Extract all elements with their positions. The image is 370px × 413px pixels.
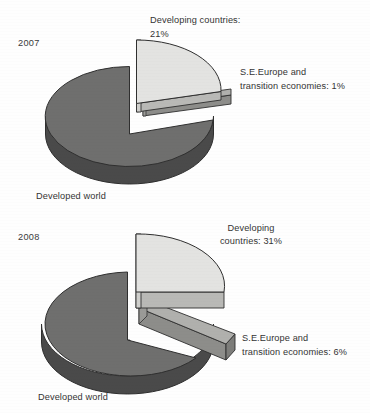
label-se-europe-2007-line1: S.E.Europe and — [240, 66, 306, 79]
pie-2008-graphic — [0, 208, 370, 413]
label-se-europe-2008-line2: transition economies: 6% — [242, 346, 347, 359]
figure-two-pie-charts: 2007 Developing countries: 21% S.E.Europ… — [0, 0, 370, 413]
pie-chart-2007: 2007 Developing countries: 21% S.E.Europ… — [0, 0, 370, 210]
label-developed-world-2008: Developed world — [38, 391, 108, 404]
slice-developing-countries-2007 — [137, 40, 222, 112]
label-se-europe-2008-line1: S.E.Europe and — [242, 332, 308, 345]
label-developing-countries-2008-line2: countries: 31% — [196, 235, 306, 248]
label-developed-world-2007: Developed world — [36, 190, 106, 203]
pie-2007-graphic — [0, 0, 370, 210]
year-label-2008: 2008 — [18, 232, 40, 242]
label-se-europe-2007-line2: transition economies: 1% — [240, 80, 345, 93]
year-label-2007: 2007 — [18, 38, 40, 48]
label-developing-countries-2007-line1: Developing countries: — [150, 14, 240, 27]
label-developing-countries-2007-line2: 21% — [150, 28, 169, 41]
label-developing-countries-2008-line1: Developing — [196, 222, 306, 235]
pie-chart-2008: 2008 Developing countries: 31% S.E.Europ… — [0, 208, 370, 413]
